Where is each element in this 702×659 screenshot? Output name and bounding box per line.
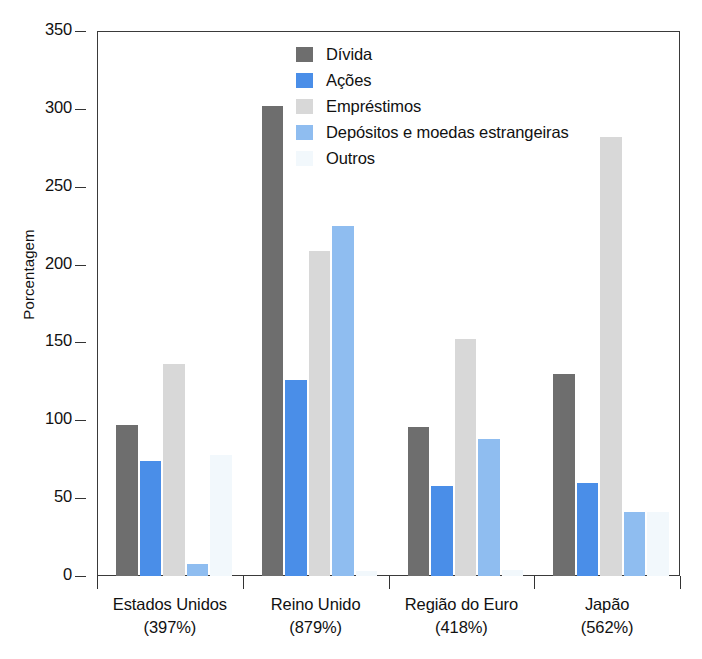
- bar: [262, 106, 284, 576]
- legend-item-label: Ações: [326, 71, 371, 90]
- bar: [553, 374, 575, 576]
- chart-legend: DívidaAçõesEmpréstimosDepósitos e moedas…: [296, 42, 626, 172]
- legend-item-label: Depósitos e moedas estrangeiras: [326, 123, 569, 142]
- bar: [577, 483, 599, 576]
- y-axis-tick-mark: [75, 187, 86, 188]
- legend-item: Dívida: [296, 42, 626, 66]
- bar: [116, 425, 138, 576]
- legend-swatch-icon: [296, 99, 313, 114]
- y-axis-tick-label: 200: [45, 254, 72, 273]
- bar: [478, 439, 500, 576]
- legend-item-label: Dívida: [326, 45, 372, 64]
- y-axis-tick-label: 150: [45, 331, 72, 350]
- y-axis-tick-mark: [75, 265, 86, 266]
- bar: [455, 339, 477, 576]
- x-axis-group-label: Japão(562%): [514, 593, 700, 639]
- y-axis-tick-label: 300: [45, 98, 72, 117]
- x-axis-separator: [389, 576, 390, 589]
- bar: [163, 364, 185, 576]
- bar: [356, 571, 378, 576]
- y-axis-tick-mark: [75, 109, 86, 110]
- bar: [140, 461, 162, 576]
- bar-group: [97, 31, 243, 576]
- y-axis-tick-mark: [75, 576, 86, 577]
- y-axis-tick-label: 100: [45, 409, 72, 428]
- bar: [408, 427, 430, 576]
- x-axis-separator: [534, 576, 535, 589]
- y-axis-tick-mark: [75, 342, 86, 343]
- x-axis-separator: [97, 576, 98, 589]
- y-axis-tick-label: 50: [54, 487, 72, 506]
- y-axis-tick-label: 0: [63, 565, 72, 584]
- x-axis-group-name: Japão: [585, 595, 629, 613]
- bar: [431, 486, 453, 576]
- x-axis-separator: [243, 576, 244, 589]
- bar: [332, 226, 354, 576]
- bar: [600, 137, 622, 576]
- y-axis-tick-mark: [75, 420, 86, 421]
- legend-item-label: Empréstimos: [326, 97, 421, 116]
- legend-swatch-icon: [296, 151, 313, 166]
- bar: [285, 380, 307, 576]
- x-axis-group-percent: (562%): [514, 616, 700, 639]
- bar: [187, 564, 209, 576]
- bar: [309, 251, 331, 576]
- legend-item: Ações: [296, 68, 626, 92]
- y-axis-tick-label: 250: [45, 176, 72, 195]
- bar: [647, 512, 669, 576]
- legend-item: Empréstimos: [296, 94, 626, 118]
- bar: [210, 455, 232, 576]
- legend-swatch-icon: [296, 125, 313, 140]
- x-axis-group-name: Região do Euro: [405, 595, 518, 613]
- y-axis-tick-mark: [75, 498, 86, 499]
- y-axis-tick-mark: [75, 31, 86, 32]
- bar-chart: Porcentagem 350300250200150100500 Estado…: [0, 0, 702, 659]
- x-axis-group-name: Estados Unidos: [113, 595, 227, 613]
- x-axis-group-name: Reino Unido: [271, 595, 361, 613]
- y-axis-tick-label: 350: [45, 20, 72, 39]
- legend-swatch-icon: [296, 73, 313, 88]
- legend-swatch-icon: [296, 47, 313, 62]
- legend-item: Outros: [296, 146, 626, 170]
- bar: [624, 512, 646, 576]
- bar: [502, 570, 524, 576]
- legend-item-label: Outros: [326, 149, 375, 168]
- x-axis-separator: [680, 576, 681, 589]
- legend-item: Depósitos e moedas estrangeiras: [296, 120, 626, 144]
- y-axis-title: Porcentagem: [20, 175, 37, 375]
